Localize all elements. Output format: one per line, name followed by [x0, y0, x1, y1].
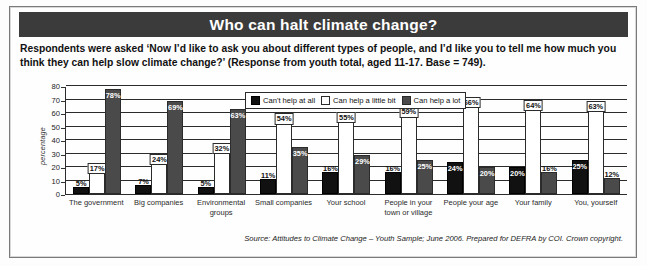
bar-value-label: 25%	[571, 162, 588, 171]
bar[interactable]: 12%	[604, 178, 620, 194]
legend-label: Can help a lot	[414, 96, 461, 105]
x-axis-label: People in your town or village	[377, 198, 439, 217]
bar-value-label: 69%	[167, 103, 184, 112]
bar-group: 5%17%78%	[66, 87, 128, 194]
y-tick-label: 50	[36, 124, 60, 132]
y-tick-label: 20	[36, 164, 60, 172]
bar-value-label: 63%	[229, 111, 246, 120]
bar[interactable]: 63%	[588, 109, 604, 194]
bar-group: 25%63%12%	[565, 87, 627, 194]
legend-item[interactable]: Can help a lot	[402, 96, 461, 105]
bar[interactable]: 24%	[447, 162, 463, 194]
bar[interactable]: 69%	[167, 101, 183, 194]
bar[interactable]: 20%	[479, 167, 495, 194]
bar-value-label: 16%	[541, 164, 558, 173]
bar[interactable]: 32%	[214, 151, 230, 194]
chart-legend: Can't help at allCan help a little bitCa…	[245, 92, 466, 109]
y-tick-label: 0	[36, 191, 60, 199]
bar[interactable]: 24%	[151, 162, 167, 194]
bar-value-label: 63%	[586, 101, 605, 112]
bar-group: 7%24%69%	[128, 87, 190, 194]
bar-value-label: 5%	[199, 179, 212, 188]
bar-value-label: 55%	[337, 112, 356, 123]
bar-value-label: 32%	[212, 143, 231, 154]
x-axis-label: You, yourself	[565, 198, 627, 217]
bar[interactable]: 5%	[73, 187, 89, 194]
bar[interactable]: 66%	[463, 105, 479, 194]
y-tick-label: 10	[36, 178, 60, 186]
y-tick-label: 30	[36, 151, 60, 159]
bar[interactable]: 7%	[135, 185, 151, 194]
bar-value-label: 24%	[150, 154, 169, 165]
bar-value-label: 29%	[354, 157, 371, 166]
legend-swatch-icon	[321, 96, 330, 105]
bar-value-label: 16%	[322, 164, 339, 173]
bar-value-label: 78%	[105, 91, 122, 100]
page-title: Who can halt climate change?	[210, 16, 438, 34]
bar-value-label: 16%	[384, 164, 401, 173]
bar[interactable]: 20%	[509, 167, 525, 194]
bar-value-label: 11%	[260, 171, 276, 180]
bar-value-label: 24%	[447, 164, 464, 173]
bar[interactable]: 5%	[198, 187, 214, 194]
bar[interactable]: 35%	[292, 147, 308, 194]
bar[interactable]: 16%	[385, 172, 401, 194]
bar-group: 20%64%16%	[502, 87, 564, 194]
bar-value-label: 20%	[479, 169, 496, 178]
bar[interactable]: 25%	[417, 160, 433, 194]
bar[interactable]: 17%	[89, 171, 105, 194]
y-tick-mark	[61, 195, 65, 196]
x-axis-label: Your school	[315, 198, 377, 217]
bar[interactable]: 11%	[260, 179, 276, 194]
y-tick-label: 40	[36, 137, 60, 145]
title-bar: Who can halt climate change?	[19, 12, 628, 37]
legend-swatch-icon	[402, 96, 411, 105]
figure-root: Who can halt climate change? Respondents…	[0, 0, 647, 266]
x-axis-label: The government	[65, 198, 127, 217]
gridline	[66, 85, 627, 86]
bar[interactable]: 55%	[338, 120, 354, 194]
intro-paragraph: Respondents were asked ‘Now I’d like to …	[20, 42, 628, 70]
bar-group: 5%32%63%	[191, 87, 253, 194]
x-axis-labels: The governmentBig companiesEnvironmental…	[65, 198, 627, 217]
x-axis-label: Big companies	[127, 198, 189, 217]
legend-label: Can't help at all	[263, 96, 315, 105]
bar[interactable]: 78%	[105, 89, 121, 194]
bar-value-label: 54%	[275, 113, 294, 124]
bar[interactable]: 59%	[401, 114, 417, 194]
legend-swatch-icon	[251, 96, 260, 105]
bar-value-label: 25%	[416, 162, 433, 171]
bar-value-label: 17%	[88, 163, 107, 174]
bar[interactable]: 16%	[541, 172, 557, 194]
bar-value-label: 7%	[137, 177, 150, 186]
x-axis-label: Your family	[502, 198, 564, 217]
x-axis-label: Environmental groups	[190, 198, 252, 217]
bar[interactable]: 16%	[322, 172, 338, 194]
bar[interactable]: 25%	[572, 160, 588, 194]
bar[interactable]: 63%	[230, 109, 246, 194]
bar[interactable]: 64%	[525, 108, 541, 194]
x-axis-label: Small companies	[252, 198, 314, 217]
legend-item[interactable]: Can't help at all	[251, 96, 315, 105]
legend-label: Can help a little bit	[333, 96, 395, 105]
y-tick-label: 70	[36, 97, 60, 105]
y-tick-label: 80	[36, 83, 60, 91]
bar-value-label: 20%	[509, 169, 526, 178]
bar-value-label: 12%	[603, 170, 620, 179]
source-note: Source: Attitudes to Climate Change – Yo…	[20, 234, 627, 243]
x-axis-label: People your age	[440, 198, 502, 217]
bar-value-label: 5%	[75, 179, 88, 188]
bar[interactable]: 54%	[276, 121, 292, 194]
bar[interactable]: 29%	[354, 155, 370, 194]
legend-item[interactable]: Can help a little bit	[321, 96, 395, 105]
y-tick-label: 60	[36, 110, 60, 118]
chart: percentage 01020304050607080 5%17%78%7%2…	[20, 86, 628, 231]
bar-value-label: 35%	[292, 149, 309, 158]
bar-value-label: 64%	[524, 100, 543, 111]
